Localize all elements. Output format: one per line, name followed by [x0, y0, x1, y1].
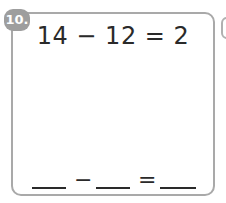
minus-sign: −	[74, 167, 92, 192]
answer-blank-3[interactable]	[160, 187, 196, 189]
answer-blank-2[interactable]	[96, 187, 130, 189]
example-equation: 14 − 12 = 2	[0, 22, 226, 50]
answer-blank-1[interactable]	[32, 187, 66, 189]
answer-row: − =	[0, 172, 226, 192]
equals-sign: =	[138, 167, 156, 192]
next-problem-badge-partial	[221, 17, 226, 39]
